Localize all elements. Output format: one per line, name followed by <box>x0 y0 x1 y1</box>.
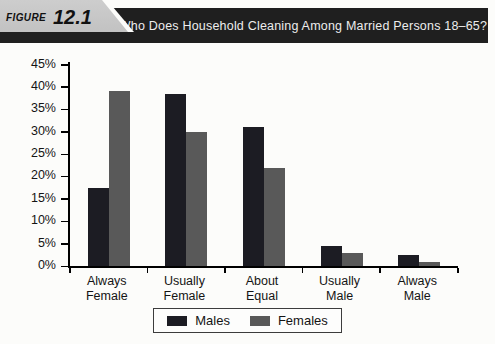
x-category-label-line: Always <box>68 274 146 289</box>
bar-males-usually-female <box>165 94 186 266</box>
figure-header: Who Does Household Cleaning Among Marrie… <box>0 0 495 50</box>
bar-females-always-male <box>419 262 440 266</box>
x-tick <box>379 268 381 273</box>
bar-chart: 0%5%10%15%20%25%30%35%40%45% AlwaysFemal… <box>0 50 495 344</box>
x-category-label-line: Female <box>68 289 146 304</box>
legend: MalesFemales <box>153 308 342 333</box>
x-category-label: AboutEqual <box>223 274 301 304</box>
y-axis: 0%5%10%15%20%25%30%35%40%45% <box>0 62 62 266</box>
figure-12-1-page: Who Does Household Cleaning Among Marrie… <box>0 0 495 344</box>
x-tick <box>69 268 71 273</box>
y-tick <box>61 243 68 245</box>
bar-males-about-equal <box>243 127 264 266</box>
figure-word: FIGURE <box>6 12 46 23</box>
y-tick <box>61 64 68 66</box>
x-category-label: AlwaysMale <box>378 274 456 304</box>
legend-label-males: Males <box>195 313 230 328</box>
x-tick <box>302 268 304 273</box>
y-tick <box>61 131 68 133</box>
x-category-label: AlwaysFemale <box>68 274 146 304</box>
x-category-label: UsuallyFemale <box>146 274 224 304</box>
x-axis-labels: AlwaysFemaleUsuallyFemaleAboutEqualUsual… <box>68 274 456 308</box>
x-category-label-line: Usually <box>146 274 224 289</box>
y-tick <box>61 221 68 223</box>
y-tick-label: 0% <box>38 258 56 273</box>
legend-item-females: Females <box>250 313 328 328</box>
y-tick-label: 40% <box>31 79 56 94</box>
legend-swatch-males <box>167 316 187 326</box>
x-category-label: UsuallyMale <box>301 274 379 304</box>
y-tick-label: 35% <box>31 101 56 116</box>
x-tick <box>147 268 149 273</box>
x-category-label-line: Male <box>378 289 456 304</box>
x-category-label-line: Usually <box>301 274 379 289</box>
x-category-label-line: About <box>223 274 301 289</box>
y-tick <box>61 176 68 178</box>
x-tick <box>457 268 459 273</box>
bar-females-usually-male <box>342 253 363 266</box>
y-tick-label: 10% <box>31 213 56 228</box>
y-tick-label: 15% <box>31 191 56 206</box>
y-tick-label: 25% <box>31 146 56 161</box>
y-tick-label: 5% <box>38 236 56 251</box>
y-tick-label: 30% <box>31 124 56 139</box>
x-tick <box>224 268 226 273</box>
bar-females-usually-female <box>186 132 207 266</box>
bar-males-usually-male <box>321 246 342 266</box>
x-category-label-line: Always <box>378 274 456 289</box>
y-tick-label: 20% <box>31 168 56 183</box>
y-tick <box>61 109 68 111</box>
y-tick-label: 45% <box>31 57 56 72</box>
y-tick <box>61 198 68 200</box>
figure-number: 12.1 <box>53 6 92 29</box>
bar-males-always-male <box>398 255 419 266</box>
bar-females-always-female <box>109 91 130 266</box>
legend-item-males: Males <box>167 313 230 328</box>
legend-wrap: MalesFemales <box>0 308 495 333</box>
bar-males-always-female <box>88 188 109 266</box>
x-category-label-line: Male <box>301 289 379 304</box>
x-category-label-line: Female <box>146 289 224 304</box>
x-category-label-line: Equal <box>223 289 301 304</box>
legend-swatch-females <box>250 316 270 326</box>
legend-label-females: Females <box>278 313 328 328</box>
figure-title: Who Does Household Cleaning Among Marrie… <box>119 19 487 33</box>
y-tick <box>61 154 68 156</box>
y-tick <box>61 86 68 88</box>
plot-area <box>68 62 458 268</box>
y-tick <box>61 266 68 268</box>
bar-females-about-equal <box>264 168 285 267</box>
